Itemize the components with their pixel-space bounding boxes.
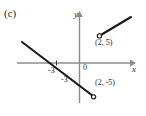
point-label-lower: (2, -5) (95, 79, 115, 87)
ascending-line-segment (100, 17, 131, 36)
origin-label: 0 (83, 64, 87, 72)
figure-panel-c: (c) y x 0 -3 -3 (2, 5) (2, -5) (0, 0, 146, 116)
x-axis-label: x (132, 65, 136, 74)
y-axis-label: y (74, 10, 78, 19)
point-label-upper: (2, 5) (95, 39, 112, 47)
coordinate-plot (0, 0, 146, 116)
x-tick-label-minus-three: -3 (48, 67, 55, 75)
part-label: (c) (4, 8, 16, 19)
y-tick-label-minus-three: -3 (61, 76, 68, 84)
open-endpoint-lower (92, 95, 96, 99)
